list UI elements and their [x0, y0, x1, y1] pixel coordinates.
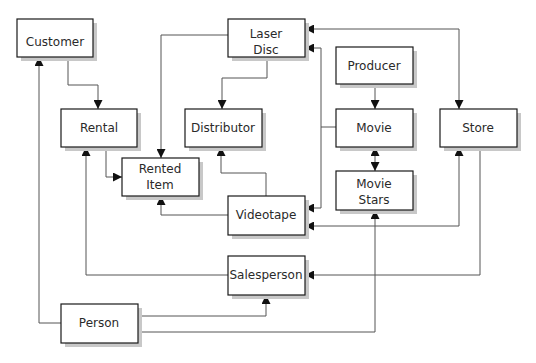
- entity-customer[interactable]: Customer: [17, 19, 97, 61]
- entity-rental[interactable]: Rental: [61, 109, 141, 151]
- entity-label: Person: [79, 316, 119, 330]
- entity-store[interactable]: Store: [440, 109, 521, 151]
- connector-person-customer: [39, 57, 61, 323]
- connector-videotape-distributor: [221, 147, 266, 196]
- entity-label: Laser: [250, 27, 283, 41]
- entity-movie[interactable]: Movie: [336, 109, 417, 151]
- entity-label: Item: [146, 178, 173, 192]
- entity-label: Rental: [80, 121, 118, 135]
- connector-rental-renteditem: [106, 147, 122, 177]
- entity-label: Salesperson: [229, 268, 302, 282]
- connector-laserdisc-distributor: [222, 57, 267, 109]
- entity-label: Movie: [356, 177, 392, 191]
- entity-label: Disc: [253, 43, 278, 57]
- entity-label: Rented: [139, 162, 182, 176]
- connector-movie-laserdisc: [305, 48, 336, 127]
- connector-customer-rental: [68, 57, 98, 109]
- entity-videotape[interactable]: Videotape: [228, 196, 309, 239]
- entity-distributor[interactable]: Distributor: [185, 109, 266, 151]
- connector-movie-videotape: [305, 127, 321, 208]
- entity-label: Movie: [356, 121, 392, 135]
- entity-movie-stars[interactable]: Movie Stars: [336, 171, 417, 214]
- entity-person[interactable]: Person: [61, 304, 142, 347]
- entity-producer[interactable]: Producer: [336, 47, 417, 88]
- er-diagram: Customer Laser Disc Producer Rental Dist…: [0, 0, 536, 363]
- entities: Customer Laser Disc Producer Rental Dist…: [17, 19, 521, 347]
- entity-label: Customer: [26, 35, 84, 49]
- entity-label: Stars: [359, 193, 390, 207]
- entity-rented-item[interactable]: Rented Item: [122, 158, 203, 200]
- entity-label: Videotape: [236, 208, 297, 222]
- entity-laser-disc[interactable]: Laser Disc: [228, 19, 309, 61]
- entity-label: Distributor: [191, 121, 255, 135]
- entity-label: Store: [462, 121, 494, 135]
- entity-salesperson[interactable]: Salesperson: [228, 256, 309, 299]
- entity-label: Producer: [347, 59, 400, 73]
